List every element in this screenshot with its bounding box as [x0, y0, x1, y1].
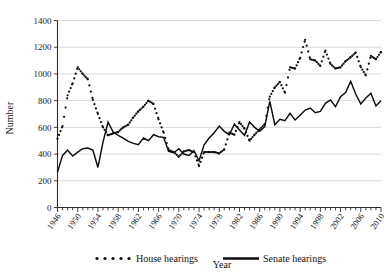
house-data-dot	[282, 87, 284, 89]
house-data-dot	[145, 102, 147, 104]
y-tick-label: 0	[47, 203, 52, 213]
house-data-dot	[233, 134, 235, 136]
house-data-dot	[265, 115, 267, 117]
house-data-dot	[268, 98, 270, 100]
house-data-dot	[154, 107, 156, 109]
house-data-dot	[369, 57, 371, 59]
house-data-dot	[64, 106, 66, 108]
house-data-dot	[91, 97, 93, 99]
house-data-dot	[68, 91, 70, 93]
house-data-dot	[95, 107, 97, 109]
chart-figure: 0200400600800100012001400 19461950195419…	[0, 0, 389, 280]
x-axis-title: Year	[213, 259, 232, 270]
house-data-dot	[250, 138, 252, 140]
house-data-dot	[287, 76, 289, 78]
house-data-dot	[321, 60, 323, 62]
legend-house-dot	[111, 257, 114, 260]
house-data-dot	[341, 64, 343, 66]
house-data-dot	[87, 78, 89, 80]
house-data-dot	[240, 123, 242, 125]
house-data-dot	[306, 45, 308, 47]
house-data-dot	[339, 66, 341, 68]
house-data-dot	[129, 121, 131, 123]
house-data-dot	[225, 143, 227, 145]
house-data-dot	[63, 116, 65, 118]
house-data-dot	[142, 106, 144, 108]
house-data-dot	[304, 39, 306, 41]
house-data-dot	[103, 129, 105, 131]
house-data-dot	[59, 130, 61, 132]
house-data-dot	[226, 138, 228, 140]
legend-house-label: House hearings	[136, 253, 198, 264]
house-data-dot	[267, 106, 269, 108]
house-data-dot	[355, 51, 357, 53]
house-data-dot	[97, 113, 99, 115]
house-data-dot	[245, 131, 247, 133]
y-tick-label: 600	[38, 123, 52, 133]
house-data-dot	[70, 87, 72, 89]
legend-house-dot	[103, 257, 106, 260]
house-data-dot	[302, 46, 304, 48]
house-data-dot	[166, 142, 168, 144]
house-data-dot	[80, 70, 82, 72]
house-data-dot	[198, 165, 200, 167]
house-data-dot	[358, 60, 360, 62]
y-tick-label: 1200	[34, 42, 53, 52]
house-data-dot	[301, 51, 303, 53]
house-data-dot	[194, 155, 196, 157]
house-data-dot	[309, 56, 311, 58]
house-data-dot	[130, 119, 132, 121]
house-data-dot	[135, 113, 137, 115]
house-data-dot	[56, 138, 58, 140]
house-data-dot	[284, 92, 286, 94]
house-data-dot	[61, 125, 63, 127]
house-data-dot	[155, 112, 157, 114]
chart-background	[0, 0, 389, 280]
house-data-dot	[241, 125, 243, 127]
y-axis-title: Number	[4, 101, 15, 134]
house-data-dot	[73, 77, 75, 79]
y-tick-label: 1000	[34, 69, 53, 79]
house-data-dot	[366, 68, 368, 70]
house-data-dot	[77, 66, 79, 68]
house-data-dot	[360, 66, 362, 68]
house-data-dot	[378, 54, 380, 56]
house-data-dot	[243, 128, 245, 130]
house-data-dot	[299, 57, 301, 59]
house-data-dot	[288, 69, 290, 71]
house-data-dot	[248, 140, 250, 142]
house-data-dot	[58, 134, 60, 136]
house-data-dot	[127, 124, 129, 126]
house-data-dot	[193, 151, 195, 153]
house-data-dot	[279, 81, 281, 83]
house-data-dot	[380, 51, 382, 53]
house-data-dot	[246, 135, 248, 137]
house-data-dot	[164, 137, 166, 139]
y-tick-label: 800	[38, 96, 52, 106]
house-data-dot	[326, 53, 328, 55]
house-data-dot	[105, 131, 107, 133]
legend-house-dot	[119, 257, 122, 260]
house-data-dot	[102, 126, 104, 128]
house-data-dot	[322, 56, 324, 58]
y-tick-label: 1400	[34, 16, 53, 26]
house-data-dot	[272, 90, 274, 92]
house-data-dot	[157, 118, 159, 120]
legend-house-dot	[127, 257, 130, 260]
house-data-dot	[363, 71, 365, 73]
house-data-dot	[319, 65, 321, 67]
house-data-dot	[132, 116, 134, 118]
house-data-dot	[88, 84, 90, 86]
house-data-dot	[201, 157, 203, 159]
house-data-dot	[356, 56, 358, 58]
house-data-dot	[100, 121, 102, 123]
house-data-dot	[98, 117, 100, 119]
legend-house-dot	[95, 257, 98, 260]
house-data-dot	[144, 104, 146, 106]
house-data-dot	[223, 148, 225, 150]
house-data-dot	[361, 69, 363, 71]
house-data-dot	[235, 130, 237, 132]
house-data-dot	[295, 64, 297, 66]
house-data-dot	[307, 50, 309, 52]
house-data-dot	[285, 84, 287, 86]
